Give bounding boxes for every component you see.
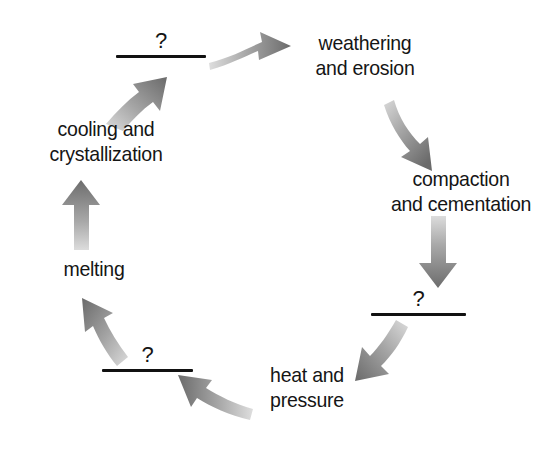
question-mark: ? [102, 344, 193, 366]
node-label-line: melting [48, 256, 141, 281]
arrow-heat-to-blankbottom [178, 375, 253, 420]
node-label-line: compaction [375, 166, 548, 191]
node-label-line: weathering [297, 30, 433, 55]
blank-slot-right[interactable]: ? [371, 288, 466, 316]
blank-slot-bottom[interactable]: ? [102, 344, 193, 372]
arrow-weathering-to-compaction [384, 100, 432, 171]
node-compaction-and-cementation: compaction and cementation [375, 166, 548, 216]
answer-rule [102, 369, 193, 372]
node-label-line: heat and [252, 362, 362, 387]
question-mark: ? [371, 288, 466, 310]
answer-rule [371, 313, 466, 316]
node-label-line: crystallization [26, 141, 186, 166]
arrow-compaction-to-blankright [419, 216, 457, 288]
arrow-blanktop-to-weathering [209, 32, 291, 70]
arrow-melting-to-cooling [62, 180, 100, 250]
node-weathering-and-erosion: weathering and erosion [297, 30, 433, 80]
node-label-line: and cementation [375, 191, 548, 216]
rock-cycle-diagram: ? weathering and erosion compaction and … [0, 0, 558, 453]
question-mark: ? [116, 30, 206, 52]
answer-rule [116, 55, 206, 58]
node-label-line: pressure [252, 387, 362, 412]
arrow-blankright-to-heat [355, 320, 408, 381]
node-melting: melting [48, 256, 141, 281]
node-label-line: and erosion [297, 55, 433, 80]
node-heat-and-pressure: heat and pressure [252, 362, 362, 412]
node-cooling-and-crystallization: cooling and crystallization [26, 116, 186, 166]
blank-slot-top[interactable]: ? [116, 30, 206, 58]
node-label-line: cooling and [26, 116, 186, 141]
